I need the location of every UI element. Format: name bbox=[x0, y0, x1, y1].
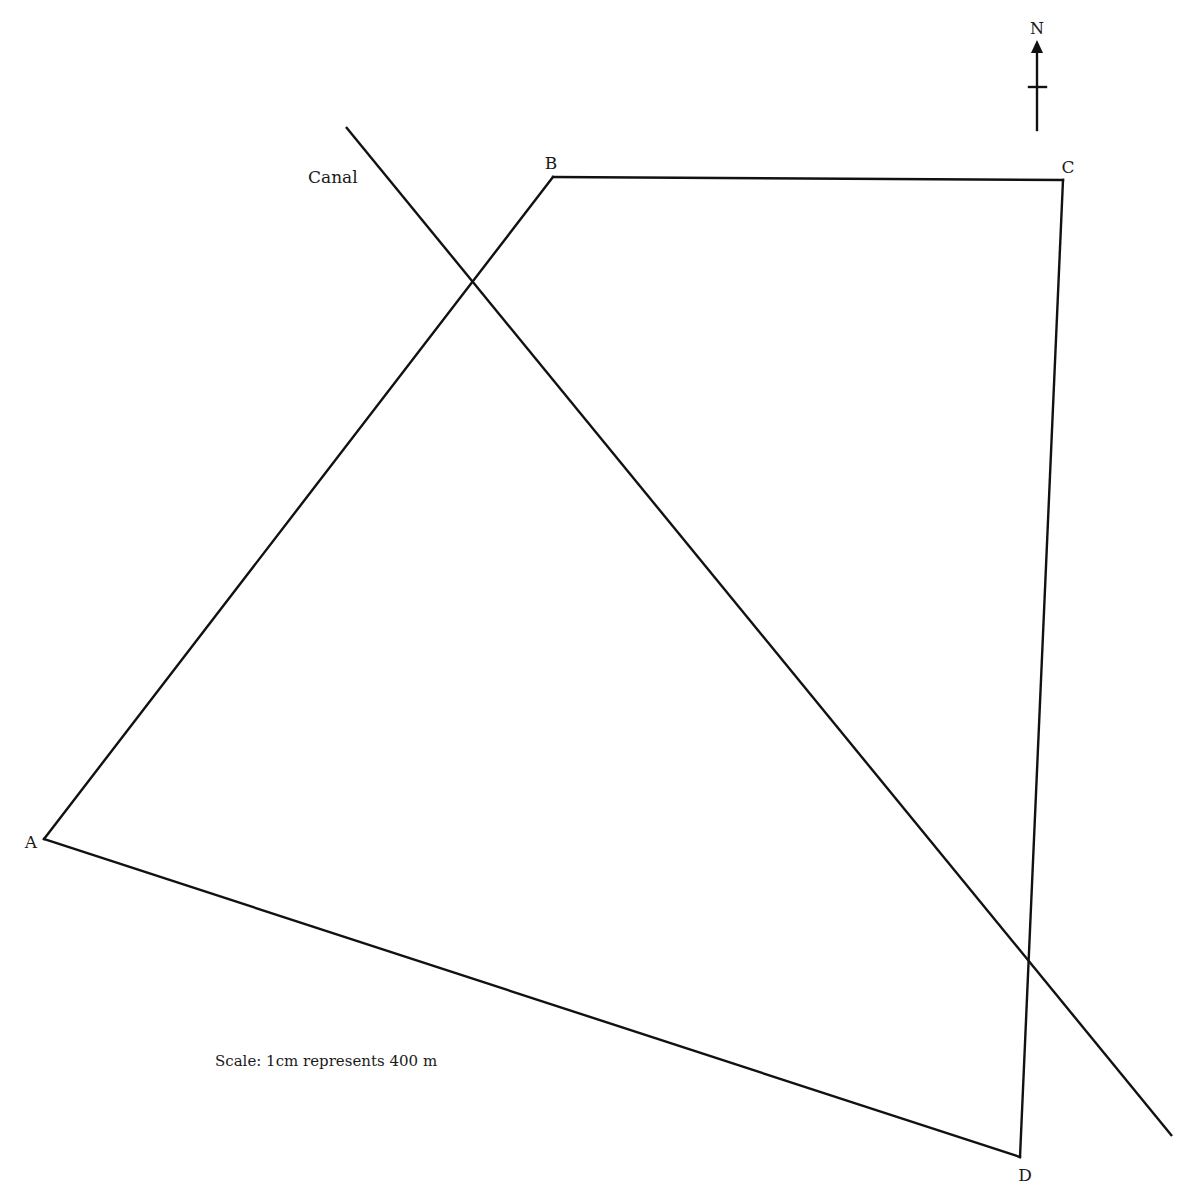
north-arrow-icon: N bbox=[1029, 19, 1046, 130]
edge-b-c bbox=[553, 177, 1063, 180]
quadrilateral-abcd bbox=[44, 177, 1063, 1157]
north-label: N bbox=[1030, 19, 1044, 38]
edge-c-d bbox=[1020, 180, 1063, 1157]
edge-a-b bbox=[44, 177, 553, 839]
scale-note: Scale: 1cm represents 400 m bbox=[215, 1052, 437, 1070]
edge-d-a bbox=[44, 839, 1020, 1157]
canal-line bbox=[346, 127, 1172, 1136]
vertex-label-d: D bbox=[1018, 1165, 1032, 1185]
vertex-label-b: B bbox=[545, 153, 558, 173]
vertex-label-a: A bbox=[24, 832, 38, 852]
canal-label: Canal bbox=[308, 167, 358, 187]
map-diagram: N Canal A B C D Scale: 1cm represents 40… bbox=[0, 0, 1195, 1200]
vertex-label-c: C bbox=[1061, 157, 1074, 177]
